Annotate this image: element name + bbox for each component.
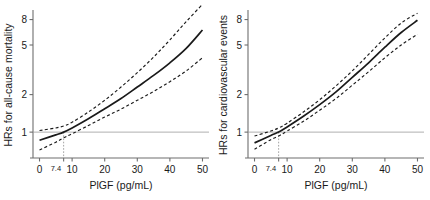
y-tick-label: 8 [21,14,27,25]
x-tick-label: 10 [282,164,294,175]
x-tick-label: 30 [132,164,144,175]
x-tick-label: 40 [164,164,176,175]
x-tick-label: 20 [99,164,111,175]
panel-cardiovascular-events: 1258010203040507.4PlGF (pg/mL)HRs for ca… [215,0,430,200]
x-axis-title: PlGF (pg/mL) [304,179,367,191]
x-tick-label: 20 [314,164,326,175]
x-tick-label: 0 [37,164,43,175]
series-line-confidence-interval [255,13,418,136]
x-tick-label: 30 [347,164,359,175]
series-group [40,4,203,150]
y-tick-label: 1 [21,127,27,138]
y-tick-label: 5 [21,40,27,51]
chart-all-cause-mortality: 1258010203040507.4PlGF (pg/mL)HRs for al… [0,0,215,200]
marker-label-plgf-threshold: 7.4 [51,164,61,173]
y-tick-label: 1 [236,127,242,138]
x-tick-label: 10 [67,164,79,175]
x-tick-label: 40 [379,164,391,175]
chart-cardiovascular-events: 1258010203040507.4PlGF (pg/mL)HRs for ca… [215,0,430,200]
y-tick-label: 2 [21,89,27,100]
marker-label-plgf-threshold: 7.4 [266,164,276,173]
x-tick-label: 0 [252,164,258,175]
y-tick-label: 5 [236,40,242,51]
y-tick-label: 2 [236,89,242,100]
y-axis-title: HRs for cardiovascular events [217,15,229,155]
y-axis-title: HRs for all-cause mortality [2,23,14,147]
hazard-ratio-figure: 1258010203040507.4PlGF (pg/mL)HRs for al… [0,0,430,200]
series-group [255,13,418,149]
series-line-confidence-interval [40,4,203,130]
x-axis-title: PlGF (pg/mL) [89,179,152,191]
series-line-hazard-ratio [255,20,418,143]
x-tick-label: 50 [197,164,209,175]
series-line-hazard-ratio [40,30,203,140]
y-tick-label: 8 [236,14,242,25]
panel-all-cause-mortality: 1258010203040507.4PlGF (pg/mL)HRs for al… [0,0,215,200]
x-tick-label: 50 [412,164,424,175]
